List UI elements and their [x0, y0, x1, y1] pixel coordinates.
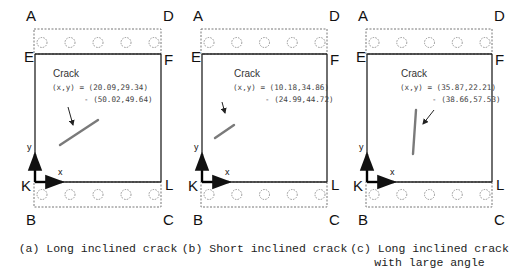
bottom-support-region — [366, 182, 492, 207]
corner-label-l: L — [331, 176, 339, 193]
top-hole-circle — [369, 38, 379, 48]
bottom-hole-circle — [260, 190, 270, 200]
corner-label-b: B — [26, 211, 36, 228]
bottom-hole-circle — [369, 190, 379, 200]
x-axis-label: x — [225, 167, 230, 177]
bottom-support-region — [34, 182, 161, 207]
bottom-hole-circle — [65, 190, 75, 200]
top-hole-circle — [452, 38, 462, 48]
corner-label-d: D — [163, 7, 174, 24]
panel-caption: with large angle — [374, 256, 485, 269]
panel-b: yxADEFKLBCCrack(x,y) = (10.18,34.86)- (2… — [182, 7, 348, 255]
corner-label-f: F — [164, 51, 173, 68]
top-support-region — [366, 29, 492, 54]
bottom-hole-circle — [93, 190, 103, 200]
corner-label-c: C — [329, 211, 340, 228]
crack-line — [60, 120, 98, 145]
top-support-region — [201, 29, 327, 54]
bottom-hole-circle — [149, 190, 159, 200]
crack-diagram-figure: yxADEFKLBCCrack(x,y) = (20.09,29.34)- (5… — [0, 0, 522, 276]
panel-c: yxADEFKLBCCrack(x,y) = (35.87,22.21)- (3… — [350, 7, 509, 269]
top-hole-circle — [425, 38, 435, 48]
bottom-hole-circle — [480, 190, 490, 200]
bottom-hole-circle — [397, 190, 407, 200]
y-axis-label: y — [359, 142, 364, 152]
corner-label-k: K — [188, 177, 198, 194]
bottom-hole-circle — [315, 190, 325, 200]
x-axis-label: x — [390, 167, 395, 177]
top-support-region — [34, 29, 161, 54]
crack-coord-start: (x,y) = (10.18,34.86) — [233, 83, 329, 92]
bottom-hole-circle — [452, 190, 462, 200]
corner-label-e: E — [24, 48, 34, 65]
crack-line — [413, 110, 416, 154]
crack-title: Crack — [401, 68, 428, 79]
top-hole-circle — [37, 38, 47, 48]
bottom-support-region — [201, 182, 327, 207]
corner-label-f: F — [495, 51, 504, 68]
crack-coord-start: (x,y) = (20.09,29.34) — [52, 83, 148, 92]
top-hole-circle — [397, 38, 407, 48]
corner-label-c: C — [494, 211, 505, 228]
y-axis-label: y — [194, 142, 199, 152]
corner-label-a: A — [26, 7, 36, 24]
bottom-hole-circle — [425, 190, 435, 200]
top-hole-circle — [204, 38, 214, 48]
crack-pointer-arrow — [222, 102, 225, 113]
crack-pointer-arrow — [68, 107, 73, 125]
corner-label-k: K — [21, 177, 31, 194]
corner-label-l: L — [165, 176, 173, 193]
bottom-hole-circle — [121, 190, 131, 200]
panel-caption: (c) Long inclined crack — [350, 242, 509, 255]
panel-a: yxADEFKLBCCrack(x,y) = (20.09,29.34)- (5… — [19, 7, 178, 255]
crack-title: Crack — [53, 68, 80, 79]
crack-pointer-arrow — [423, 110, 434, 124]
crack-coord-end: - (38.66,57.53) — [432, 95, 501, 104]
crack-coord-end: - (24.99,44.72) — [265, 95, 334, 104]
top-hole-circle — [480, 38, 490, 48]
corner-label-a: A — [193, 7, 203, 24]
top-hole-circle — [149, 38, 159, 48]
corner-label-b: B — [358, 211, 368, 228]
top-hole-circle — [121, 38, 131, 48]
panel-caption: (a) Long inclined crack — [19, 242, 178, 255]
bottom-hole-circle — [204, 190, 214, 200]
bottom-hole-circle — [287, 190, 297, 200]
top-hole-circle — [65, 38, 75, 48]
corner-label-d: D — [329, 7, 340, 24]
corner-label-b: B — [193, 211, 203, 228]
corner-label-a: A — [358, 7, 368, 24]
top-hole-circle — [287, 38, 297, 48]
top-hole-circle — [260, 38, 270, 48]
crack-coord-start: (x,y) = (35.87,22.21) — [400, 83, 496, 92]
corner-label-d: D — [494, 7, 505, 24]
y-axis-label: y — [27, 142, 32, 152]
top-hole-circle — [93, 38, 103, 48]
bottom-hole-circle — [37, 190, 47, 200]
corner-label-e: E — [356, 48, 366, 65]
crack-title: Crack — [234, 68, 261, 79]
top-hole-circle — [315, 38, 325, 48]
top-hole-circle — [232, 38, 242, 48]
corner-label-f: F — [330, 51, 339, 68]
crack-line — [215, 125, 234, 138]
x-axis-label: x — [58, 167, 63, 177]
crack-coord-end: - (50.02,49.64) — [84, 95, 153, 104]
corner-label-e: E — [191, 48, 201, 65]
bottom-hole-circle — [232, 190, 242, 200]
corner-label-l: L — [496, 176, 504, 193]
panel-caption: (b) Short inclined crack — [182, 242, 348, 255]
corner-label-k: K — [353, 177, 363, 194]
corner-label-c: C — [163, 211, 174, 228]
